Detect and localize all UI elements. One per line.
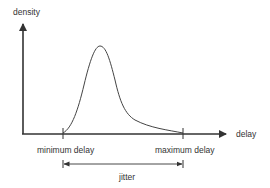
x-axis-label: delay: [236, 129, 257, 139]
maximum-delay-label: maximum delay: [155, 145, 215, 155]
delay-density-diagram: density delay minimum delay maximum dela…: [0, 0, 270, 188]
jitter-label: jitter: [118, 172, 135, 182]
minimum-delay-label: minimum delay: [37, 145, 95, 155]
density-curve: [63, 46, 183, 133]
y-axis-label: density: [13, 7, 41, 17]
